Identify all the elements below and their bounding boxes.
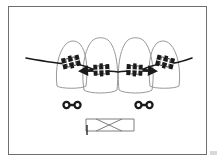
edge-artifact [210, 151, 217, 155]
dumbbell-right [134, 101, 153, 109]
twisted-wire-segment [86, 119, 134, 135]
orthodontic-illustration [0, 0, 218, 157]
figure-root [0, 0, 218, 157]
dumbbell-left [62, 101, 81, 109]
bracket-lateral-left [61, 54, 82, 71]
bracket-lateral-right [155, 54, 176, 71]
